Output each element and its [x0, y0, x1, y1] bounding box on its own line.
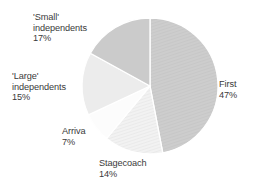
slice-label-large-independents-line1: 'Large'	[12, 71, 66, 82]
slice-label-large-independents-percent: 15%	[12, 92, 66, 103]
slice-label-stagecoach: Stagecoach 14%	[99, 158, 147, 179]
slice-label-arriva-line1: Arriva	[62, 126, 85, 137]
slice-label-first-line1: First	[219, 79, 237, 90]
slice-label-arriva: Arriva 7%	[62, 126, 85, 147]
slice-label-first: First 47%	[219, 79, 237, 100]
slice-label-large-independents-line2: independents	[12, 82, 66, 93]
slice-label-arriva-percent: 7%	[62, 137, 85, 148]
pie-slice-first[interactable]	[150, 18, 218, 153]
pie-chart-figure: 'Small' independents 17% 'Large' indepen…	[0, 0, 256, 185]
slice-label-small-independents-line1: 'Small'	[33, 12, 87, 23]
slice-label-small-independents-line2: independents	[33, 23, 87, 34]
slice-label-stagecoach-percent: 14%	[99, 169, 147, 180]
slice-label-small-independents: 'Small' independents 17%	[33, 12, 87, 44]
slice-label-first-percent: 47%	[219, 90, 237, 101]
pie-slices-group	[82, 18, 218, 154]
slice-label-stagecoach-line1: Stagecoach	[99, 158, 147, 169]
slice-label-small-independents-percent: 17%	[33, 33, 87, 44]
slice-label-large-independents: 'Large' independents 15%	[12, 71, 66, 103]
